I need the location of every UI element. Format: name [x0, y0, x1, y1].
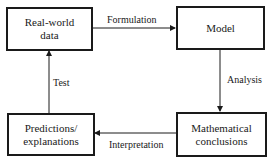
node-predictions-explanations: Predictions/ explanations: [7, 113, 95, 156]
node-label-line: Mathematical: [191, 122, 251, 135]
node-label-line: conclusions: [191, 135, 251, 148]
node-label-line: Real-world: [25, 16, 74, 29]
edge-label-test: Test: [53, 77, 70, 88]
node-model: Model: [176, 6, 265, 50]
node-label-line: explanations: [23, 135, 79, 148]
edge-label-analysis: Analysis: [227, 74, 262, 85]
node-label-line: Predictions/: [23, 122, 79, 135]
node-label-line: Model: [206, 22, 235, 35]
edge-label-interpretation: Interpretation: [109, 139, 163, 150]
edge-label-formulation: Formulation: [107, 14, 156, 25]
node-mathematical-conclusions: Mathematical conclusions: [176, 112, 267, 157]
node-label-line: data: [25, 29, 74, 42]
node-real-world-data: Real-world data: [6, 7, 93, 51]
